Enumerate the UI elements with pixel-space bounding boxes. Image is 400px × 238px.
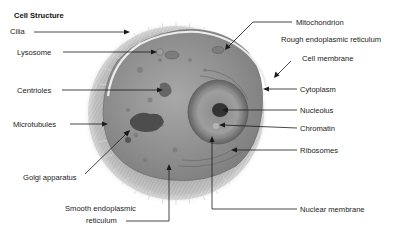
label-smooth-er-line2: reticulum — [86, 216, 117, 225]
label-cell-membrane: Cell membrane — [302, 54, 354, 63]
label-nuclear-membrane: Nuclear membrane — [300, 205, 365, 214]
cell-structure-diagram: Cell Structure Cilia Lysosome Centrioles… — [0, 0, 400, 238]
label-nucleolus: Nucleolus — [300, 106, 333, 115]
nucleus — [188, 80, 248, 144]
lysosome-shape — [157, 49, 164, 56]
label-mitochondrion: Mitochondrion — [296, 18, 344, 27]
label-ribosomes: Ribosomes — [300, 146, 338, 155]
chromatin-shape — [213, 123, 219, 129]
label-smooth-er-line1: Smooth endoplasmic — [65, 204, 136, 213]
label-chromatin: Chromatin — [300, 124, 335, 133]
label-rough-er: Rough endoplasmic reticulum — [281, 35, 381, 44]
diagram-title: Cell Structure — [14, 11, 64, 20]
label-golgi-apparatus: Golgi apparatus — [23, 173, 77, 182]
label-cytoplasm: Cytoplasm — [300, 85, 336, 94]
label-centrioles: Centrioles — [17, 86, 51, 95]
label-cilia: Cilia — [10, 27, 25, 36]
label-microtubules: Microtubules — [13, 120, 56, 129]
label-lysosome: Lysosome — [17, 48, 51, 57]
